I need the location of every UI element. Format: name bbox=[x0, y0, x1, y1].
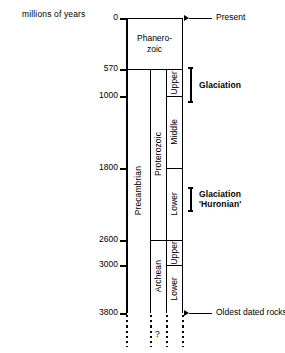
cell-label-proterozoic-middle: Middle bbox=[170, 119, 179, 145]
cell-label-archean-upper: Upper bbox=[170, 241, 179, 265]
uncertainty-question-mark: ? bbox=[155, 330, 160, 339]
glaciation-label-2: Glaciation 'Huronian' bbox=[199, 189, 241, 209]
glaciation-bracket-2 bbox=[188, 187, 193, 212]
dashed-continuation-eon bbox=[150, 315, 152, 347]
cell-label-precambrian: Precambrian bbox=[134, 166, 143, 215]
axis-tick-label-1800: 1800 bbox=[0, 163, 118, 172]
cell-label-archean-lower: Lower bbox=[170, 277, 179, 301]
cell-proterozoic-lower: Lower bbox=[167, 168, 182, 240]
axis-tick-label-570: 570 bbox=[0, 64, 118, 73]
oldest-rocks-callout-label: Oldest dated rocks bbox=[216, 308, 285, 317]
cell-label-proterozoic-upper: Upper bbox=[170, 71, 179, 95]
cell-label-archean: Archean bbox=[154, 260, 163, 292]
dashed-continuation-axis bbox=[126, 315, 128, 347]
cell-proterozoic-upper: Upper bbox=[167, 69, 182, 96]
cell-proterozoic-middle: Middle bbox=[167, 96, 182, 168]
oldest-rocks-leader-line bbox=[189, 313, 212, 314]
cell-archean-lower: Lower bbox=[167, 265, 182, 313]
present-leader-line bbox=[189, 18, 212, 19]
chart-right-edge bbox=[182, 18, 183, 313]
axis-tick-mark-1800 bbox=[120, 168, 127, 170]
axis-tick-mark-3000 bbox=[120, 265, 127, 267]
axis-tick-mark-2600 bbox=[120, 240, 127, 242]
dashed-continuation-subera bbox=[182, 315, 184, 347]
axis-tick-label-3000: 3000 bbox=[0, 260, 118, 269]
axis-tick-570: 570 bbox=[0, 64, 118, 73]
axis-tick-1800: 1800 bbox=[0, 163, 118, 172]
cell-archean-upper: Upper bbox=[167, 240, 182, 265]
axis-tick-0: 0 bbox=[0, 13, 118, 22]
cell-label-proterozoic-lower: Lower bbox=[170, 192, 179, 216]
axis-tick-label-3800: 3800 bbox=[0, 308, 118, 317]
axis-tick-label-0: 0 bbox=[0, 13, 118, 22]
axis-tick-3800: 3800 bbox=[0, 308, 118, 317]
cell-proterozoic: Proterozoic bbox=[151, 69, 166, 240]
axis-tick-1000: 1000 bbox=[0, 91, 118, 100]
cell-precambrian: Precambrian bbox=[127, 69, 150, 313]
axis-tick-mark-1000 bbox=[120, 96, 127, 98]
glaciation-label-1: Glaciation bbox=[199, 80, 241, 90]
axis-tick-label-1000: 1000 bbox=[0, 91, 118, 100]
dashed-continuation-era bbox=[166, 315, 168, 347]
glaciation-bracket-1 bbox=[188, 67, 193, 103]
geologic-timescale-diagram: millions of years 0 570 1000 1800 2600 3… bbox=[0, 0, 285, 353]
axis-tick-3000: 3000 bbox=[0, 260, 118, 269]
cell-archean: Archean bbox=[151, 240, 166, 313]
present-callout-label: Present bbox=[216, 13, 245, 22]
cell-label-proterozoic: Proterozoic bbox=[154, 132, 163, 176]
cell-phanerozoic: Phanero- zoic bbox=[127, 18, 182, 69]
cell-label-phanerozoic: Phanero- zoic bbox=[137, 33, 172, 54]
axis-tick-2600: 2600 bbox=[0, 235, 118, 244]
axis-tick-label-2600: 2600 bbox=[0, 235, 118, 244]
